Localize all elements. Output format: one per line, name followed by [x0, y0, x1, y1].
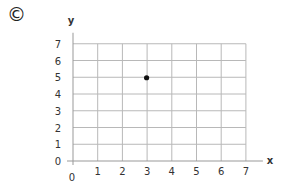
y-tick-label: 5 [55, 72, 61, 83]
x-tick-label: 6 [218, 166, 224, 177]
data-point [144, 75, 149, 80]
chart: 1234567012345670xy [0, 0, 290, 189]
y-tick-label: 7 [55, 39, 61, 50]
y-tick-label: 0 [55, 156, 61, 167]
y-tick-label: 1 [55, 139, 61, 150]
y-tick-label: 4 [55, 89, 61, 100]
data-points [144, 75, 149, 80]
x-tick-label: 3 [144, 166, 150, 177]
y-tick-label: 2 [55, 123, 61, 134]
axes [67, 33, 263, 165]
x-axis-label: x [267, 155, 274, 166]
tick-labels: 1234567012345670xy [55, 15, 274, 183]
x-tick-label: 7 [243, 166, 249, 177]
x-tick-label: 1 [95, 166, 101, 177]
x-tick-label: 2 [119, 166, 125, 177]
x-tick-label: 5 [193, 166, 199, 177]
grid [73, 44, 246, 161]
origin-label: 0 [69, 172, 75, 183]
y-tick-label: 3 [55, 106, 61, 117]
y-tick-label: 6 [55, 56, 61, 67]
x-tick-label: 4 [169, 166, 175, 177]
y-axis-label: y [68, 15, 75, 26]
